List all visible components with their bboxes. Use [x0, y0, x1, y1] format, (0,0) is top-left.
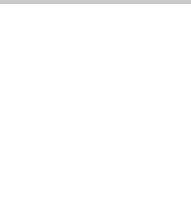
coordinate-plane — [0, 0, 191, 197]
